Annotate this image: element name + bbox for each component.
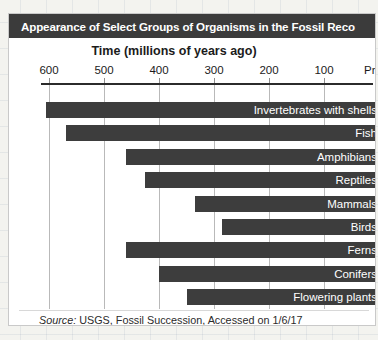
bar-row[interactable]: Invertebrates with shells [9,102,376,118]
source-note: Source: USGS, Fossil Succession, Accesse… [39,314,302,326]
x-axis-tick-label: 400 [149,64,168,76]
bar-label: Birds [351,219,376,235]
bar[interactable]: Fish [66,125,377,141]
source-label: Source: [39,314,76,326]
bar-label: Reptiles [335,172,376,188]
bar-row[interactable]: Mammals [9,196,376,212]
x-axis-tick-label: 600 [39,64,58,76]
x-axis-tick-mark [159,78,160,83]
bar-row[interactable]: Conifers [9,266,376,282]
x-axis-tick-mark [49,78,50,83]
bar-label: Fish [355,125,376,141]
x-axis-tick-label: 300 [204,64,223,76]
plot-area: 600500400300200100Prese Invertebrates wi… [9,14,376,326]
bar-label: Conifers [334,266,376,282]
bar-label: Amphibians [317,149,376,165]
bar[interactable]: Ferns [126,242,376,258]
bar[interactable]: Birds [222,219,376,235]
source-value: USGS, Fossil Succession, Accessed on 1/6… [76,314,302,326]
bar-label: Invertebrates with shells [254,102,376,118]
x-axis-tick-mark [214,78,215,83]
bar-row[interactable]: Reptiles [9,172,376,188]
x-axis-tick-label: 200 [259,64,278,76]
bar-label: Mammals [327,196,376,212]
source-divider [19,310,369,311]
bar-row[interactable]: Ferns [9,242,376,258]
x-axis-tick-mark [324,78,325,83]
chart-card: Appearance of Select Groups of Organisms… [8,13,376,326]
bar[interactable]: Mammals [195,196,376,212]
x-axis-tick-label: Prese [364,64,376,76]
x-axis-tick-mark [104,78,105,83]
x-axis-tick-mark [269,78,270,83]
bar[interactable]: Conifers [159,266,376,282]
x-axis-tick-label: 500 [94,64,113,76]
bar[interactable]: Flowering plants [187,289,377,305]
bar-row[interactable]: Birds [9,219,376,235]
bar-label: Ferns [348,242,376,258]
bar[interactable]: Amphibians [126,149,376,165]
bar-row[interactable]: Flowering plants [9,289,376,305]
bar-row[interactable]: Fish [9,125,376,141]
bar[interactable]: Invertebrates with shells [46,102,376,118]
bar-label: Flowering plants [293,289,376,305]
x-axis-tick-label: 100 [314,64,333,76]
bar[interactable]: Reptiles [145,172,376,188]
bar-row[interactable]: Amphibians [9,149,376,165]
